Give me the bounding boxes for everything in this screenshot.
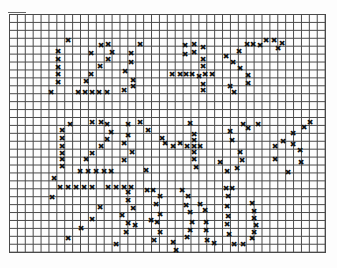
cross-stitch-mark-icon — [132, 222, 139, 229]
cross-stitch-mark-icon — [224, 221, 231, 228]
cross-stitch-mark-icon — [130, 205, 137, 212]
cross-stitch-mark-icon — [105, 184, 112, 191]
cross-stitch-mark-icon — [85, 168, 92, 175]
cross-stitch-mark-icon — [290, 141, 297, 148]
cross-stitch-mark-icon — [121, 87, 128, 94]
cross-stitch-mark-icon — [55, 48, 62, 55]
cross-stitch-mark-icon — [121, 157, 128, 164]
cross-stitch-mark-icon — [104, 121, 111, 128]
cross-stitch-mark-icon — [203, 227, 210, 234]
cross-stitch-mark-icon — [184, 143, 191, 150]
cross-stitch-mark-icon — [89, 216, 96, 223]
cross-stitch-mark-icon — [113, 241, 120, 248]
cross-stitch-mark-icon — [93, 168, 100, 175]
cross-stitch-mark-icon — [231, 241, 238, 248]
cross-stitch-mark-icon — [263, 37, 270, 44]
cross-stitch-mark-icon — [55, 56, 62, 63]
cross-stitch-mark-icon — [49, 194, 56, 201]
cross-stitch-mark-icon — [143, 167, 150, 174]
cross-stitch-mark-icon — [157, 211, 164, 218]
cross-stitch-mark-icon — [137, 119, 144, 126]
cross-stitch-mark-icon — [237, 65, 244, 72]
cross-stitch-mark-icon — [182, 42, 189, 49]
cross-stitch-mark-icon — [78, 225, 85, 232]
cross-stitch-mark-icon — [285, 169, 292, 176]
cross-stitch-mark-icon — [82, 89, 89, 96]
cross-stitch-mark-icon — [170, 143, 177, 150]
cross-stitch-mark-icon — [51, 175, 58, 182]
cross-stitch-mark-icon — [125, 220, 132, 227]
cross-stitch-mark-icon — [162, 140, 169, 147]
cross-stitch-mark-icon — [234, 165, 241, 172]
cross-stitch-mark-icon — [202, 207, 209, 214]
cross-stitch-mark-icon — [73, 184, 80, 191]
cross-stitch-mark-icon — [209, 71, 216, 78]
cross-stitch-mark-icon — [121, 140, 128, 147]
cross-stitch-mark-icon — [83, 156, 90, 163]
cross-stitch-mark-icon — [177, 140, 184, 147]
cross-stitch-mark-icon — [191, 49, 198, 56]
cross-stitch-mark-icon — [217, 159, 224, 166]
cross-stitch-mark-icon — [97, 204, 104, 211]
cross-stitch-mark-icon — [245, 80, 252, 87]
cross-stitch-mark-icon — [101, 168, 108, 175]
cross-stitch-mark-icon — [249, 235, 256, 242]
cross-stitch-mark-icon — [202, 71, 209, 78]
cross-stitch-mark-icon — [169, 71, 176, 78]
cross-stitch-mark-icon — [187, 120, 194, 127]
cross-stitch-mark-icon — [307, 119, 314, 126]
cross-stitch-mark-icon — [65, 184, 72, 191]
cross-stitch-mark-icon — [137, 41, 144, 48]
cross-stitch-mark-icon — [122, 68, 129, 75]
cross-stitch-mark-icon — [230, 59, 237, 66]
cross-stitch-mark-icon — [154, 219, 161, 226]
cross-stitch-mark-icon — [271, 37, 278, 44]
cross-stitch-mark-icon — [151, 237, 158, 244]
cross-stitch-mark-icon — [150, 187, 157, 194]
cross-stitch-mark-icon — [240, 241, 247, 248]
cross-stitch-mark-icon — [224, 203, 231, 210]
cross-stitch-mark-icon — [125, 189, 132, 196]
cross-stitch-mark-icon — [77, 168, 84, 175]
cross-stitch-mark-icon — [125, 132, 132, 139]
cross-stitch-mark-icon — [204, 237, 211, 244]
cross-stitch-mark-icon — [105, 56, 112, 63]
cross-stitch-mark-icon — [97, 63, 104, 70]
cross-stitch-mark-icon — [119, 212, 126, 219]
cross-stitch-mark-icon — [197, 143, 204, 150]
cross-stitch-mark-icon — [98, 42, 105, 49]
cross-stitch-mark-icon — [129, 149, 136, 156]
cross-stitch-mark-icon — [280, 138, 287, 145]
cross-stitch-mark-icon — [104, 89, 111, 96]
cross-stitch-mark-icon — [231, 89, 238, 96]
cross-stitch-mark-icon — [226, 231, 233, 238]
cross-stitch-mark-icon — [113, 184, 120, 191]
cross-stitch-mark-icon — [187, 209, 194, 216]
cross-stitch-mark-icon — [275, 45, 282, 52]
cross-stitch-mark-icon — [128, 59, 135, 66]
cross-stitch-mark-icon — [59, 127, 66, 134]
cross-stitch-mark-icon — [298, 159, 305, 166]
cross-stitch-mark-icon — [225, 213, 232, 220]
cross-stitch-mark-icon — [184, 234, 191, 241]
cross-stitch-mark-icon — [227, 128, 234, 135]
cross-stitch-mark-icon — [55, 79, 62, 86]
cross-stitch-mark-icon — [98, 143, 105, 150]
cross-stitch-mark-icon — [272, 143, 279, 150]
cross-stitch-mark-icon — [89, 89, 96, 96]
cross-stitch-mark-icon — [83, 78, 90, 85]
cross-stitch-mark-icon — [157, 229, 164, 236]
cross-stitch-mark-icon — [145, 127, 152, 134]
cross-stitch-mark-icon — [55, 71, 62, 78]
cross-stitch-mark-icon — [191, 156, 198, 163]
cross-stitch-mark-icon — [182, 51, 189, 58]
cross-stitch-mark-icon — [229, 185, 236, 192]
cross-stitch-mark-icon — [250, 41, 257, 48]
cross-stitch-mark-icon — [104, 136, 111, 143]
cross-stitch-mark-icon — [224, 168, 231, 175]
cross-stitch-mark-icon — [89, 184, 96, 191]
cross-stitch-mark-icon — [130, 83, 137, 90]
cross-stitch-mark-icon — [185, 193, 192, 200]
cross-stitch-mark-icon — [189, 71, 196, 78]
cross-stitch-mark-icon — [96, 89, 103, 96]
